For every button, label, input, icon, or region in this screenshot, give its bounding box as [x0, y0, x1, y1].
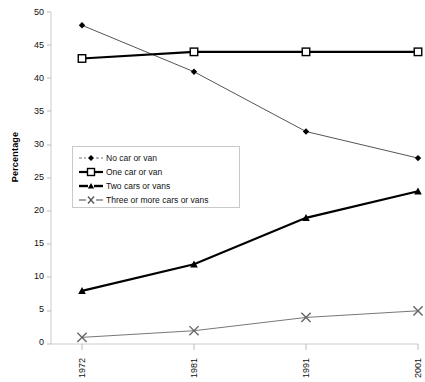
legend-item-three-or-more-cars-or-vans: Three or more cars or vans: [78, 193, 234, 207]
legend-label: No car or van: [106, 153, 157, 163]
legend-item-no-car-or-van: No car or van: [78, 151, 234, 165]
x-tick-label: 1972: [78, 358, 87, 378]
legend-item-two-cars-or-vans: Two cars or vans: [78, 179, 234, 193]
legend-label: Three or more cars or vans: [106, 195, 209, 205]
legend-item-one-car-or-van: One car or van: [78, 165, 234, 179]
chart-container: Percentage 50 45 40 35 30 25 20 15 10 5 …: [0, 0, 425, 382]
diamond-marker-icon: [78, 152, 104, 164]
x-tick-label: 1981: [190, 358, 199, 378]
y-axis-ticks: [47, 12, 51, 344]
x-tick-label: 2001: [414, 358, 423, 378]
triangle-marker-icon: [78, 180, 104, 192]
series-one-car-or-van: [78, 48, 422, 62]
x-marker-icon: [78, 194, 104, 206]
series-no-car-or-van: [79, 22, 421, 161]
x-tick-label: 1991: [302, 358, 311, 378]
legend-label: One car or van: [106, 167, 162, 177]
series-three-or-more-cars-or-vans: [77, 306, 422, 342]
chart-legend: No car or van One car or van Two car: [72, 146, 240, 208]
square-marker-icon: [78, 166, 104, 178]
legend-label: Two cars or vans: [106, 181, 170, 191]
x-axis-ticks: [82, 344, 418, 350]
